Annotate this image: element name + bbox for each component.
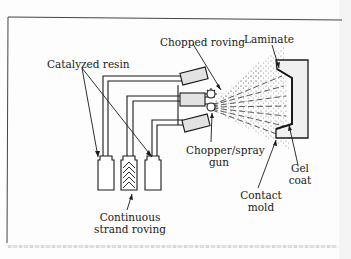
label-catalyzed-resin: Catalyzed resin [47, 58, 130, 70]
resin-container-left [98, 156, 114, 190]
figure-page: Catalyzed resin Chopped roving Laminate … [0, 0, 351, 259]
label-continuous-strand-roving-line1: Continuous [90, 211, 170, 223]
label-contact-mold: Contact mold [236, 189, 286, 213]
label-chopper-spray-gun: Chopper/spray gun [186, 144, 252, 168]
label-continuous-strand-roving: Continuous strand roving [90, 211, 170, 235]
roving-spool [121, 156, 137, 190]
label-continuous-strand-roving-line2: strand roving [90, 223, 170, 235]
label-chopper-spray-gun-line1: Chopper/spray [186, 144, 252, 156]
label-gel-coat: Gel coat [285, 162, 315, 186]
resin-pump-top [180, 67, 208, 85]
label-contact-mold-line1: Contact [236, 189, 286, 201]
label-contact-mold-line2: mold [236, 201, 286, 213]
chopper-wheel-icon [205, 88, 217, 111]
label-gel-coat-line1: Gel [285, 162, 315, 174]
label-gel-coat-line2: coat [285, 174, 315, 186]
label-laminate: Laminate [244, 33, 294, 45]
chopper-body [180, 93, 205, 106]
resin-pump-bottom [182, 114, 210, 132]
label-chopper-spray-gun-line2: gun [186, 156, 252, 168]
label-chopped-roving: Chopped roving [160, 36, 245, 48]
scan-artifact [8, 245, 338, 248]
resin-container-right [145, 156, 161, 190]
